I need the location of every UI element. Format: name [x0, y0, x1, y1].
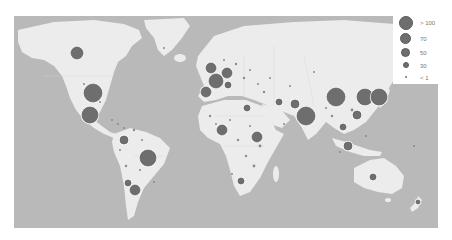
bubble-philippines[interactable]: [353, 111, 361, 119]
legend-circle-icon: [400, 33, 411, 44]
bubble-italy[interactable]: [225, 82, 231, 88]
legend-label: < 1: [420, 74, 429, 82]
bubble-new-zealand[interactable]: [416, 200, 420, 204]
legend-label: 30: [420, 62, 427, 70]
map-canvas: [14, 16, 438, 228]
legend-label: 50: [420, 49, 427, 57]
legend-label: > 100: [420, 19, 435, 27]
legend-item: > 100: [393, 16, 443, 30]
bubble-vietnam[interactable]: [340, 124, 346, 130]
legend-item: < 1: [393, 71, 443, 85]
bubble-egypt[interactable]: [244, 105, 250, 111]
bubble-iran[interactable]: [276, 99, 282, 105]
legend-circle-icon: [401, 48, 410, 57]
bubble-argentina[interactable]: [130, 185, 140, 195]
size-legend: > 100 70 50 30 < 1: [393, 14, 443, 84]
bubble-united-states[interactable]: [84, 84, 102, 102]
bubble-australia[interactable]: [370, 174, 376, 180]
bubble-pakistan[interactable]: [291, 100, 299, 108]
land-indonesia: [332, 138, 382, 156]
bubble-france[interactable]: [209, 74, 223, 88]
legend-item: 50: [393, 46, 443, 60]
bubble-canada[interactable]: [71, 47, 83, 59]
land-north-america: [18, 20, 142, 138]
bubble-spain[interactable]: [201, 87, 211, 97]
legend-label: 70: [420, 35, 427, 43]
bubble-japan[interactable]: [371, 89, 387, 105]
bubble-indonesia[interactable]: [344, 142, 352, 150]
land-tasmania: [385, 198, 391, 202]
legend-circle-icon: [405, 76, 407, 78]
legend-item: 70: [393, 32, 443, 46]
bubble-united-kingdom[interactable]: [206, 63, 216, 73]
bubble-india[interactable]: [297, 107, 315, 125]
bubble-chile[interactable]: [125, 180, 131, 186]
world-bubble-map[interactable]: [14, 16, 438, 228]
legend-circle-icon: [399, 16, 413, 30]
bubble-brazil[interactable]: [140, 150, 156, 166]
land-madagascar: [273, 166, 279, 182]
legend-circle-icon: [403, 62, 409, 68]
bubble-nigeria[interactable]: [217, 125, 227, 135]
land-iceland: [174, 54, 186, 62]
land-australia: [354, 158, 404, 194]
bubble-germany[interactable]: [222, 68, 232, 78]
bubble-colombia[interactable]: [120, 136, 128, 144]
land-greenland: [144, 18, 190, 56]
bubble-ethiopia[interactable]: [252, 132, 262, 142]
bubble-mexico[interactable]: [82, 107, 98, 123]
bubble-south-africa[interactable]: [238, 178, 244, 184]
bubble-china[interactable]: [327, 88, 345, 106]
